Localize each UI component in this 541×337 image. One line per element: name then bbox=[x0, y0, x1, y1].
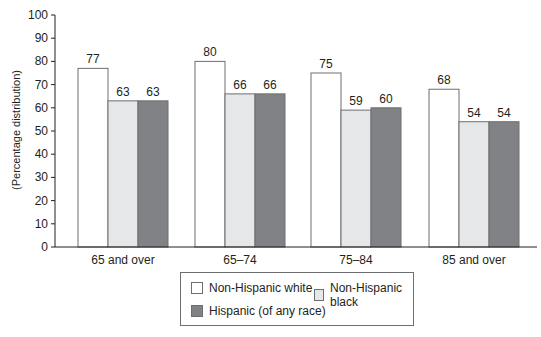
legend-item-non-hispanic-black: Non-Hispanic black bbox=[314, 281, 413, 309]
bar-value-label: 80 bbox=[203, 45, 217, 59]
y-tick-label: 70 bbox=[35, 78, 49, 92]
y-tick-label: 50 bbox=[35, 124, 49, 138]
legend-item-non-hispanic-white: Non-Hispanic white bbox=[191, 281, 312, 295]
x-axis: 65 and over65–7475–8485 and over bbox=[55, 247, 537, 267]
bar-value-label: 59 bbox=[349, 94, 363, 108]
legend-item-hispanic: Hispanic (of any race) bbox=[191, 304, 326, 318]
bar bbox=[225, 94, 255, 247]
bar-value-label: 63 bbox=[116, 85, 130, 99]
bar-value-label: 77 bbox=[86, 52, 100, 66]
bar bbox=[138, 101, 168, 247]
bar-group: 776363 bbox=[78, 52, 168, 247]
legend-label: Non-Hispanic white bbox=[209, 281, 312, 295]
y-tick-label: 30 bbox=[35, 170, 49, 184]
bar-value-label: 54 bbox=[497, 106, 511, 120]
bar bbox=[489, 122, 519, 247]
y-axis: 0102030405060708090100 bbox=[28, 8, 55, 254]
bar bbox=[459, 122, 489, 247]
legend-swatch-light-gray bbox=[314, 289, 324, 301]
legend-label: Non-Hispanic black bbox=[330, 281, 413, 309]
y-tick-label: 90 bbox=[35, 31, 49, 45]
legend: Non-Hispanic white Non-Hispanic black Hi… bbox=[180, 272, 414, 326]
bars: 776363806666755960685454 bbox=[78, 45, 519, 247]
x-category-label: 75–84 bbox=[339, 253, 373, 267]
bar bbox=[108, 101, 138, 247]
bar-group: 806666 bbox=[195, 45, 285, 247]
y-tick-label: 60 bbox=[35, 101, 49, 115]
y-tick-label: 80 bbox=[35, 54, 49, 68]
bar-value-label: 54 bbox=[467, 106, 481, 120]
bar-value-label: 66 bbox=[263, 78, 277, 92]
y-tick-label: 0 bbox=[41, 240, 48, 254]
y-tick-label: 100 bbox=[28, 8, 48, 22]
bar bbox=[341, 110, 371, 247]
bar-value-label: 63 bbox=[146, 85, 160, 99]
y-tick-label: 40 bbox=[35, 147, 49, 161]
bar bbox=[371, 108, 401, 247]
x-category-label: 85 and over bbox=[442, 253, 505, 267]
y-axis-label: (Percentage distribution) bbox=[10, 70, 22, 190]
bar-value-label: 66 bbox=[233, 78, 247, 92]
bar-value-label: 60 bbox=[379, 92, 393, 106]
bar bbox=[255, 94, 285, 247]
x-category-label: 65 and over bbox=[91, 253, 154, 267]
bar bbox=[78, 68, 108, 247]
legend-swatch-dark-gray bbox=[191, 305, 203, 317]
x-category-label: 65–74 bbox=[223, 253, 257, 267]
y-tick-label: 10 bbox=[35, 217, 49, 231]
legend-swatch-white bbox=[191, 282, 203, 294]
bar-value-label: 68 bbox=[437, 73, 451, 87]
y-tick-label: 20 bbox=[35, 194, 49, 208]
bar-group: 755960 bbox=[311, 57, 401, 247]
legend-label: Hispanic (of any race) bbox=[209, 304, 326, 318]
bar-value-label: 75 bbox=[319, 57, 333, 71]
bar-group: 685454 bbox=[429, 73, 519, 247]
bar bbox=[195, 61, 225, 247]
bar bbox=[429, 89, 459, 247]
bar bbox=[311, 73, 341, 247]
